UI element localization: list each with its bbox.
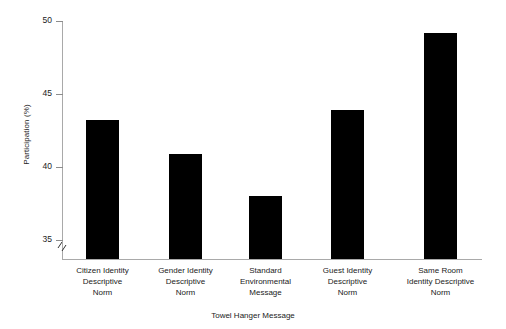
category-label-line: Same Room bbox=[392, 265, 490, 276]
y-axis-tick-mark bbox=[56, 167, 63, 168]
x-axis-title: Towel Hanger Message bbox=[0, 311, 506, 320]
category-label-line: Norm bbox=[392, 287, 490, 298]
axis-break-icon bbox=[55, 241, 71, 259]
bar bbox=[249, 196, 282, 259]
category-label-line: Identity Descriptive bbox=[392, 276, 490, 287]
y-axis-tick-label: 35 bbox=[12, 235, 52, 244]
x-axis-category-label: Same RoomIdentity DescriptiveNorm bbox=[392, 265, 490, 298]
y-axis-tick-label: 40 bbox=[12, 162, 52, 171]
y-axis-tick-mark bbox=[56, 240, 63, 241]
x-axis-line bbox=[62, 259, 482, 260]
bar-chart-figure: Participation (%) 35404550 Citizen Ident… bbox=[0, 0, 506, 329]
category-label-line: Descriptive bbox=[299, 276, 397, 287]
category-label-line: Norm bbox=[299, 287, 397, 298]
y-axis-tick-mark bbox=[56, 94, 63, 95]
category-label-line: Guest Identity bbox=[299, 265, 397, 276]
x-axis-category-label: Guest IdentityDescriptiveNorm bbox=[299, 265, 397, 298]
bar bbox=[424, 33, 457, 259]
y-axis-tick-label: 45 bbox=[12, 89, 52, 98]
y-axis-title: Participation (%) bbox=[22, 65, 31, 205]
y-axis-tick-label: 50 bbox=[12, 16, 52, 25]
bar bbox=[169, 154, 202, 259]
bar bbox=[86, 120, 119, 259]
y-axis-tick-mark bbox=[56, 21, 63, 22]
bar bbox=[331, 110, 364, 259]
y-axis-line bbox=[62, 21, 63, 253]
